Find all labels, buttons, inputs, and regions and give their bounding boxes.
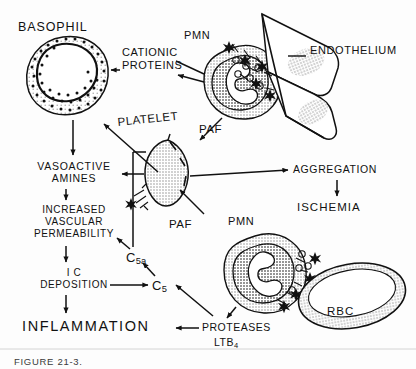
label-proteases: PROTEASES — [202, 321, 271, 333]
basophil-cell-drawing — [27, 37, 109, 115]
label-c5: C5 — [152, 278, 167, 295]
label-vasoactive-amines: VASOACTIVE AMINES — [31, 160, 117, 185]
ltb4-subscript: 4 — [234, 341, 238, 350]
figure-panel: BASOPHIL CATIONIC PROTEINS PMN ENDOTHELI… — [0, 0, 416, 369]
label-inflammation: INFLAMMATION — [22, 318, 150, 335]
c5-subscript: 5 — [162, 284, 167, 294]
label-endothelium: ENDOTHELIUM — [310, 44, 397, 57]
label-increased-vascular-permeability: INCREASED VASCULAR PERMEABILITY — [24, 204, 124, 239]
platelet-receptor-icon — [134, 184, 148, 210]
ltb4-base: LTB — [214, 336, 234, 348]
label-paf-platelet: PAF — [199, 123, 222, 137]
label-ic-deposition: I C DEPOSITION — [22, 267, 126, 291]
c5a-base: C — [126, 250, 136, 265]
label-c5a: C5a — [126, 250, 146, 267]
label-ischemia: ISCHEMIA — [297, 201, 361, 215]
label-rbc: RBC — [327, 305, 354, 319]
label-aggregation: AGGREGATION — [293, 163, 377, 175]
label-pmn-endothelium: PMN — [184, 29, 210, 42]
label-pmn-rbc: PMN — [228, 215, 254, 228]
label-cationic-proteins: CATIONIC PROTEINS — [122, 46, 182, 72]
figure-caption: FIGURE 21-3. — [14, 356, 83, 369]
label-paf-pmn: PAF — [169, 218, 192, 232]
label-ltb4: LTB4 — [214, 336, 238, 351]
endothelium-drawing — [223, 14, 339, 139]
c5-base: C — [152, 278, 162, 293]
label-basophil: BASOPHIL — [18, 20, 88, 35]
c5a-subscript: 5a — [136, 256, 146, 266]
